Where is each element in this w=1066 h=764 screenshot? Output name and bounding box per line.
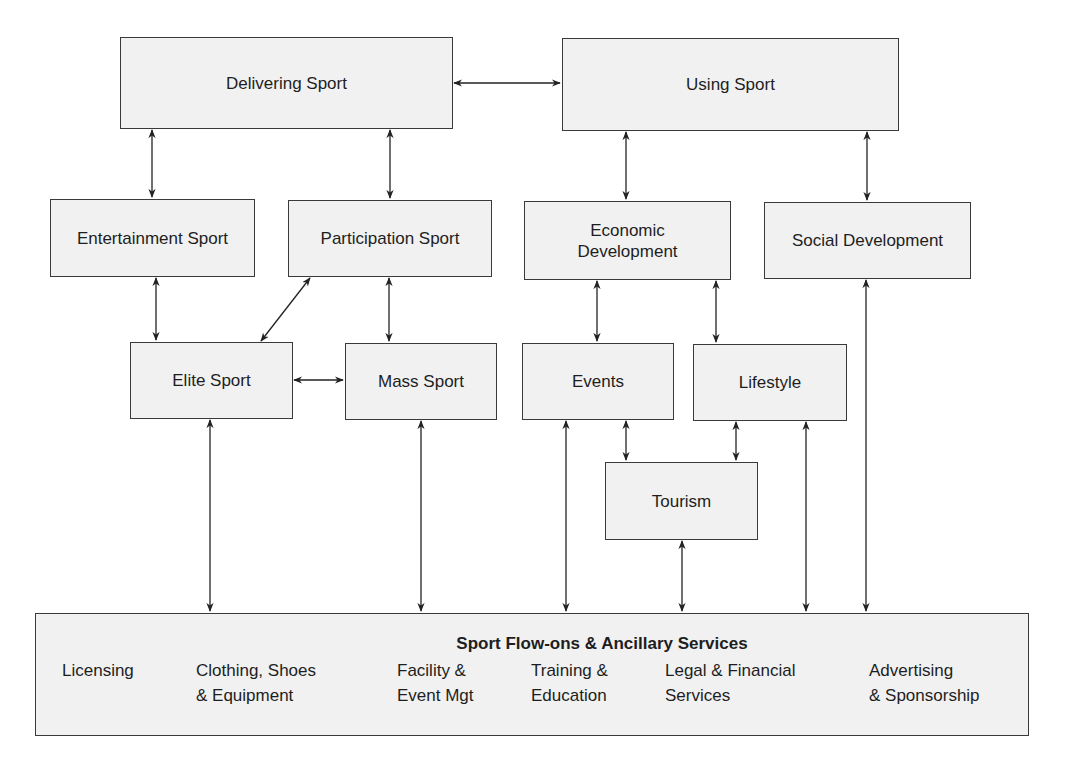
node-social-development: Social Development: [764, 202, 971, 279]
ancillary-item-training: Training & Education: [531, 658, 608, 708]
node-lifestyle: Lifestyle: [693, 344, 847, 421]
node-label: Mass Sport: [378, 371, 464, 392]
node-label: Entertainment Sport: [77, 228, 228, 249]
node-label: Social Development: [792, 230, 943, 251]
node-entertainment-sport: Entertainment Sport: [50, 199, 255, 277]
node-delivering-sport: Delivering Sport: [120, 37, 453, 129]
node-label: Tourism: [652, 491, 712, 512]
node-participation-sport: Participation Sport: [288, 200, 492, 277]
node-label: Participation Sport: [321, 228, 460, 249]
node-using-sport: Using Sport: [562, 38, 899, 131]
node-label: Events: [572, 371, 624, 392]
node-label: Using Sport: [686, 74, 775, 95]
node-tourism: Tourism: [605, 462, 758, 540]
ancillary-title: Sport Flow-ons & Ancillary Services: [36, 634, 1028, 654]
ancillary-item-clothing: Clothing, Shoes & Equipment: [196, 658, 316, 708]
ancillary-item-licensing: Licensing: [62, 658, 134, 683]
node-label: Elite Sport: [172, 370, 250, 391]
ancillary-item-facility: Facility & Event Mgt: [397, 658, 474, 708]
node-ancillary-services: Sport Flow-ons & Ancillary Services Lice…: [35, 613, 1029, 736]
node-label: Lifestyle: [739, 372, 801, 393]
node-mass-sport: Mass Sport: [345, 343, 497, 420]
node-label: Economic Development: [577, 220, 677, 262]
node-economic-development: Economic Development: [524, 201, 731, 280]
node-elite-sport: Elite Sport: [130, 342, 293, 419]
ancillary-item-advertising: Advertising & Sponsorship: [869, 658, 980, 708]
node-events: Events: [522, 343, 674, 420]
arrow-participation-elite: [261, 278, 310, 341]
ancillary-item-legal: Legal & Financial Services: [665, 658, 795, 708]
node-label: Delivering Sport: [226, 73, 347, 94]
